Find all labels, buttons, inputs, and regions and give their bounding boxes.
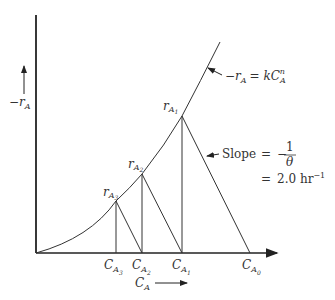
point-label-ra2: rA2 [128,157,144,173]
slope-eq2: = [261,172,271,186]
cstr-diagram: −rA −rA= kCAn rA1 rA2 rA3 CA3 CA2 CA1 CA… [0,0,335,300]
slope-label: Slope [222,147,256,161]
tick-ca1: CA1 [172,258,191,276]
slope-pointer-arrow-icon [207,154,219,156]
tick-ca2: CA2 [132,258,151,276]
point-label-ra3: rA3 [103,185,119,201]
curve-pointer-arrow-icon [208,68,222,75]
x-axis-label: CA [135,276,150,292]
slope-value: 2.0 hr−1 [277,171,325,186]
slope-denominator: θ [286,155,294,169]
slope-eq1: = [261,147,271,161]
point-label-ra1: rA1 [163,99,178,115]
rate-curve [36,42,220,253]
operating-line-2 [142,174,182,253]
y-axis-label: −rA [9,95,31,111]
tick-ca0: CA0 [242,258,261,276]
operating-line-3 [116,201,142,253]
curve-equation: −rA= kCAn [225,67,286,85]
operating-line-1 [182,116,250,253]
tick-ca3: CA3 [104,258,123,276]
slope-numerator: 1 [286,140,294,154]
curve-pointer-arrow-icon [147,72,200,97]
